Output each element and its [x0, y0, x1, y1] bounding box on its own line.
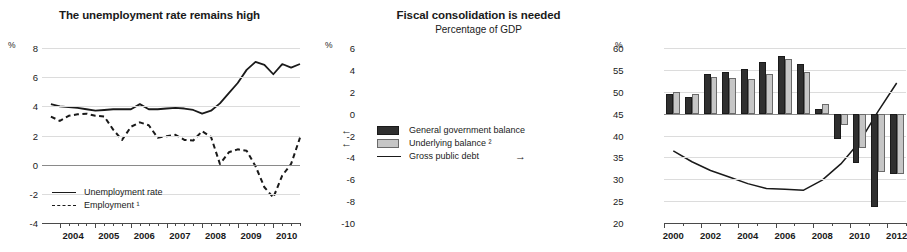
x-tick-mark	[300, 223, 301, 226]
y-tick-label-right: 35	[613, 152, 639, 163]
x-tick-mark	[229, 223, 230, 226]
bar-general-government-balance-2011	[871, 114, 878, 207]
bar-general-government-balance-2008	[815, 109, 822, 114]
zero-line	[664, 114, 906, 116]
x-tick-label: 2006	[774, 230, 795, 241]
y-tick-label: -4	[8, 218, 38, 229]
series-line-employment	[51, 114, 300, 198]
x-tick-label: 2002	[700, 230, 721, 241]
y-tick-label: 8	[8, 43, 38, 54]
bar-underlying-balance-2002	[711, 77, 718, 114]
gridline	[42, 194, 300, 195]
right-chart-title: Fiscal consolidation is needed	[319, 9, 638, 21]
x-tick-label: 2006	[134, 230, 155, 241]
bar-underlying-balance-2009	[841, 114, 848, 125]
bar-general-government-balance-2002	[704, 74, 711, 113]
solid-line-swatch-icon	[52, 192, 76, 193]
x-tick-mark	[69, 223, 70, 226]
x-tick-mark	[202, 223, 203, 228]
dark-box-swatch-icon	[377, 126, 399, 135]
x-tick-mark	[776, 223, 777, 228]
x-tick-label: 2008	[205, 230, 226, 241]
bar-underlying-balance-2000	[673, 92, 680, 113]
bar-underlying-balance-2001	[692, 94, 699, 113]
x-tick-mark	[140, 223, 141, 226]
x-tick-mark	[683, 223, 684, 226]
gridline	[42, 106, 300, 107]
y-tick-label-left: 6	[325, 43, 355, 54]
bar-general-government-balance-2007	[797, 64, 804, 113]
right-chart-plot-area	[664, 48, 906, 223]
light-box-swatch-icon	[377, 139, 399, 148]
x-tick-mark	[757, 223, 758, 226]
bar-underlying-balance-2010	[859, 114, 866, 148]
bar-underlying-balance-2004	[748, 79, 755, 113]
x-tick-mark	[95, 223, 96, 228]
bar-general-government-balance-2003	[722, 72, 729, 114]
y-tick-label-left: 4	[325, 64, 355, 75]
y-tick-label-right: 25	[613, 196, 639, 207]
x-tick-label: 2004	[63, 230, 84, 241]
y-tick-label-right: 40	[613, 130, 639, 141]
bar-general-government-balance-2005	[759, 62, 766, 113]
bar-general-government-balance-2009	[834, 114, 841, 139]
x-tick-mark	[86, 223, 87, 226]
x-tick-mark	[193, 223, 194, 226]
x-tick-mark	[291, 223, 292, 226]
x-tick-mark	[664, 223, 665, 228]
y-tick-label-right: 60	[613, 43, 639, 54]
bar-underlying-balance-2008	[822, 104, 829, 114]
legend-label-underlying-balance: Underlying balance ²	[409, 137, 492, 150]
gridline	[664, 157, 906, 158]
x-tick-mark	[167, 223, 168, 228]
dashed-line-swatch-icon	[52, 205, 76, 206]
y-tick-label-left: 2	[325, 86, 355, 97]
x-tick-mark	[104, 223, 105, 226]
zero-line	[42, 165, 300, 167]
x-tick-mark	[256, 223, 257, 226]
x-tick-label: 2000	[663, 230, 684, 241]
gridline	[664, 179, 906, 180]
y-tick-label: 0	[8, 159, 38, 170]
x-tick-label: 2005	[98, 230, 119, 241]
x-tick-mark	[273, 223, 274, 228]
right-chart-subtitle: Percentage of GDP	[319, 24, 638, 35]
x-tick-mark	[149, 223, 150, 226]
x-tick-mark	[113, 223, 114, 226]
y-tick-label-left: -10	[325, 218, 355, 229]
legend-label-unemployment-rate: Unemployment rate	[84, 186, 163, 199]
left-chart-panel: The unemployment rate remains high % 864…	[0, 0, 319, 252]
x-tick-mark	[794, 223, 795, 226]
x-tick-label: 2008	[812, 230, 833, 241]
gridline	[42, 77, 300, 78]
x-tick-label: 2010	[276, 230, 297, 241]
bar-general-government-balance-2000	[666, 94, 673, 113]
x-tick-mark	[247, 223, 248, 226]
x-tick-mark	[238, 223, 239, 228]
bar-underlying-balance-2011	[878, 114, 885, 172]
left-arrow-icon: ←	[341, 124, 352, 137]
bar-underlying-balance-2005	[766, 74, 773, 113]
y-tick-label-right: 45	[613, 108, 639, 119]
x-tick-label: 2004	[737, 230, 758, 241]
x-tick-label: 2010	[849, 230, 870, 241]
bar-general-government-balance-2012	[890, 114, 897, 174]
x-tick-label: 2012	[886, 230, 907, 241]
x-tick-mark	[131, 223, 132, 228]
bar-underlying-balance-2003	[729, 78, 736, 114]
y-tick-label-left: -8	[325, 196, 355, 207]
y-tick-label-right: 55	[613, 64, 639, 75]
x-tick-mark	[220, 223, 221, 226]
x-tick-label: 2009	[240, 230, 261, 241]
left-chart-title: The unemployment rate remains high	[0, 9, 319, 21]
x-tick-label: 2007	[169, 230, 190, 241]
gridline	[42, 136, 300, 137]
gridline	[664, 136, 906, 137]
y-tick-label: -2	[8, 188, 38, 199]
x-tick-mark	[184, 223, 185, 226]
legend-label-gross-public-debt: Gross public debt	[409, 150, 479, 163]
x-tick-mark	[869, 223, 870, 226]
x-tick-mark	[264, 223, 265, 226]
bar-underlying-balance-2007	[804, 72, 811, 114]
